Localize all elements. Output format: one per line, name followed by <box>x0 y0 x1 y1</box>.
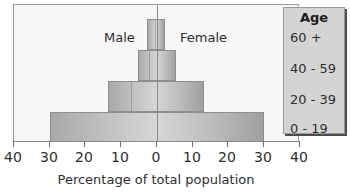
tick-label: 0 <box>141 149 171 165</box>
tick-label: 10 <box>105 149 135 165</box>
tick-label: 30 <box>248 149 278 165</box>
female-label: Female <box>180 30 227 45</box>
legend-item-20-39: 20 - 39 <box>290 92 336 107</box>
legend-title: Age <box>284 10 344 25</box>
tick-label: 30 <box>34 149 64 165</box>
tick-label: 20 <box>212 149 242 165</box>
tick <box>49 141 50 147</box>
tick-label: 40 <box>284 149 314 165</box>
tick <box>227 141 228 147</box>
plot-area <box>13 4 299 141</box>
legend-item-0-19: 0 - 19 <box>290 121 328 136</box>
bar-20-39 <box>108 81 204 112</box>
legend-item-60-plus: 60 + <box>290 30 322 45</box>
tick-label: 10 <box>177 149 207 165</box>
tick <box>156 141 157 147</box>
tick <box>299 141 300 147</box>
bar-60-plus <box>147 19 165 50</box>
x-axis-title: Percentage of total population <box>0 172 312 187</box>
tick <box>84 141 85 147</box>
tick-label: 20 <box>69 149 99 165</box>
legend-item-40-59: 40 - 59 <box>290 61 336 76</box>
tick-label: 40 <box>0 149 28 165</box>
age-legend: Age 60 + 40 - 59 20 - 39 0 - 19 <box>283 7 345 134</box>
tick <box>120 141 121 147</box>
tick <box>192 141 193 147</box>
zero-line <box>157 5 158 141</box>
tick <box>263 141 264 147</box>
tick <box>13 141 14 147</box>
male-label: Male <box>104 30 135 45</box>
